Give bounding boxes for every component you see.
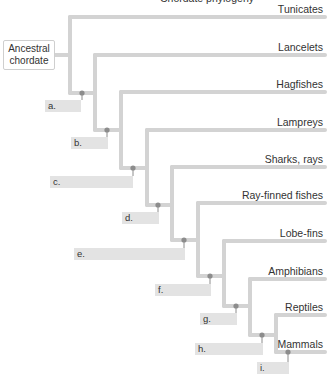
taxon-label: Lobe-fins — [280, 227, 323, 239]
taxon-label: Lampreys — [277, 116, 323, 128]
answer-box-g[interactable]: g. — [200, 313, 237, 325]
answer-box-label: c. — [53, 176, 60, 187]
cladogram: Chordate phylogeny Ancestral chordate Tu… — [0, 0, 328, 378]
taxon-label: Hagfishes — [276, 78, 323, 90]
taxon-label: Lancelets — [278, 41, 323, 53]
answer-box-label: i. — [260, 362, 265, 373]
answer-box-label: d. — [125, 212, 133, 223]
answer-box-h[interactable]: h. — [195, 343, 263, 355]
answer-box-d[interactable]: d. — [122, 212, 159, 224]
answer-box-i[interactable]: i. — [257, 362, 289, 374]
taxon-label: Ray-finned fishes — [242, 189, 323, 201]
taxon-label: Tunicates — [278, 3, 323, 15]
taxon-label: Amphibians — [268, 265, 323, 277]
answer-box-label: e. — [77, 248, 85, 259]
answer-box-label: h. — [198, 343, 206, 354]
answer-box-label: f. — [158, 284, 163, 295]
answer-box-a[interactable]: a. — [45, 100, 81, 112]
taxon-label: Reptiles — [285, 301, 323, 313]
taxon-label: Sharks, rays — [265, 153, 323, 165]
answer-box-f[interactable]: f. — [155, 284, 211, 296]
answer-box-label: g. — [203, 313, 211, 324]
taxon-label: Mammals — [277, 338, 323, 350]
answer-box-e[interactable]: e. — [74, 248, 185, 260]
answer-box-label: b. — [74, 137, 82, 148]
ancestral-chordate-box: Ancestral chordate — [3, 40, 55, 70]
answer-box-b[interactable]: b. — [71, 137, 108, 149]
answer-box-c[interactable]: c. — [50, 176, 133, 188]
answer-box-label: a. — [48, 100, 56, 111]
